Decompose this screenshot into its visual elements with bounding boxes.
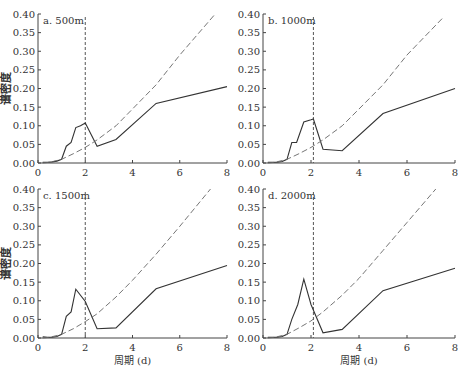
y-tick-label: 0.20 <box>238 258 260 269</box>
y-tick-label: 0.10 <box>238 295 260 306</box>
y-tick-label: 0.30 <box>13 221 35 232</box>
x-tick-label: 0 <box>260 167 266 178</box>
y-tick-label: 0.00 <box>13 158 35 169</box>
x-tick-label: 6 <box>177 342 183 353</box>
y-tick-label: 0.40 <box>13 184 35 195</box>
panel-title: d. 2000m <box>268 190 316 201</box>
x-tick-label: 6 <box>177 167 183 178</box>
spectrum-curve <box>43 265 227 337</box>
y-tick-label: 0.25 <box>238 239 260 250</box>
x-tick-label: 6 <box>404 342 410 353</box>
x-tick-label: 2 <box>82 167 88 178</box>
y-tick-label: 0.15 <box>13 102 35 113</box>
y-tick-label: 0.25 <box>13 239 35 250</box>
x-axis-label: 周期 (d) <box>340 355 377 366</box>
y-tick-label: 0.30 <box>13 46 35 57</box>
x-tick-label: 2 <box>308 342 314 353</box>
x-tick-label: 4 <box>129 167 135 178</box>
x-tick-label: 6 <box>404 167 410 178</box>
x-tick-label: 4 <box>129 342 135 353</box>
x-tick-label: 0 <box>35 167 41 178</box>
y-tick-label: 0.15 <box>13 277 35 288</box>
y-tick-label: 0.35 <box>238 202 260 213</box>
y-tick-label: 0.05 <box>238 314 260 325</box>
y-tick-label: 0.05 <box>13 314 35 325</box>
x-tick-label: 8 <box>452 167 458 178</box>
y-tick-label: 0.35 <box>13 202 35 213</box>
y-tick-label: 0.35 <box>13 27 35 38</box>
figure-canvas: 0.000.050.100.150.200.250.300.350.400246… <box>0 0 465 367</box>
y-tick-label: 0.35 <box>238 27 260 38</box>
spectrum-curve <box>268 268 455 337</box>
y-tick-label: 0.40 <box>13 9 35 20</box>
y-tick-label: 0.00 <box>13 333 35 344</box>
x-tick-label: 2 <box>308 167 314 178</box>
spectrum-curve <box>268 89 455 163</box>
y-tick-label: 0.10 <box>13 120 35 131</box>
y-tick-label: 0.20 <box>238 83 260 94</box>
x-tick-label: 8 <box>224 342 230 353</box>
panel-title: c. 1500m <box>43 190 90 201</box>
panel-d: 0.000.050.100.150.200.250.300.350.400246… <box>238 184 458 367</box>
y-tick-label: 0.20 <box>13 83 35 94</box>
y-tick-label: 0.05 <box>13 139 35 150</box>
y-tick-label: 0.15 <box>238 277 260 288</box>
panel-title: a. 500m <box>43 15 84 26</box>
y-axis-label: 谱密度 <box>0 71 13 105</box>
x-tick-label: 8 <box>452 342 458 353</box>
y-tick-label: 0.40 <box>238 9 260 20</box>
y-tick-label: 0.00 <box>238 158 260 169</box>
significance-curve <box>268 18 443 163</box>
panel-title: b. 1000m <box>268 15 316 26</box>
y-tick-label: 0.25 <box>238 64 260 75</box>
x-tick-label: 4 <box>356 167 362 178</box>
y-axis-label: 谱密度 <box>0 246 13 280</box>
y-tick-label: 0.10 <box>13 295 35 306</box>
x-tick-label: 8 <box>224 167 230 178</box>
spectrum-curve <box>43 87 227 163</box>
y-tick-label: 0.10 <box>238 120 260 131</box>
y-tick-label: 0.20 <box>13 258 35 269</box>
y-tick-label: 0.25 <box>13 64 35 75</box>
panel-a: 0.000.050.100.150.200.250.300.350.400246… <box>0 9 230 179</box>
y-tick-label: 0.15 <box>238 102 260 113</box>
y-tick-label: 0.05 <box>238 139 260 150</box>
y-tick-label: 0.30 <box>238 46 260 57</box>
x-tick-label: 0 <box>260 342 266 353</box>
y-tick-label: 0.40 <box>238 184 260 195</box>
significance-curve <box>43 14 216 163</box>
panel-c: 0.000.050.100.150.200.250.300.350.400246… <box>0 184 230 367</box>
x-axis-label: 周期 (d) <box>114 355 151 366</box>
x-tick-label: 0 <box>35 342 41 353</box>
x-tick-label: 2 <box>82 342 88 353</box>
y-tick-label: 0.00 <box>238 333 260 344</box>
x-tick-label: 4 <box>356 342 362 353</box>
y-tick-label: 0.30 <box>238 221 260 232</box>
panel-b: 0.000.050.100.150.200.250.300.350.400246… <box>238 9 458 179</box>
